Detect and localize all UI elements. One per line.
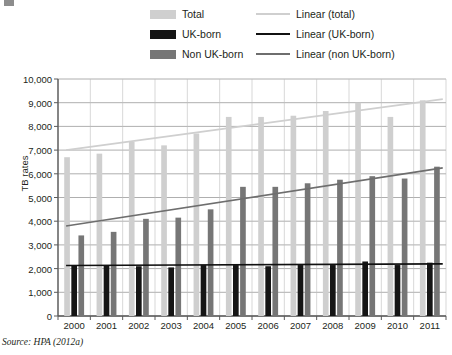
bar-uk-born-2002	[136, 266, 142, 316]
bar-total-2005	[226, 117, 232, 316]
bar-uk-born-2011	[427, 263, 433, 316]
bar-total-2003	[161, 145, 167, 316]
bar-non-uk-born-2007	[305, 183, 311, 316]
bar-total-2000	[64, 157, 70, 316]
bar-uk-born-2001	[104, 265, 110, 316]
bar-uk-born-2005	[233, 265, 239, 316]
plot-area	[0, 0, 452, 355]
bar-non-uk-born-2008	[337, 180, 343, 316]
bar-non-uk-born-2005	[240, 187, 246, 316]
source-note: Source: HPA (2012a)	[2, 337, 83, 347]
bar-non-uk-born-2004	[208, 209, 214, 316]
bar-non-uk-born-2001	[111, 232, 117, 316]
bar-total-2001	[97, 154, 103, 316]
bar-uk-born-2007	[298, 265, 304, 316]
bar-non-uk-born-2002	[143, 219, 149, 316]
bar-total-2011	[420, 100, 426, 316]
bar-uk-born-2010	[395, 265, 401, 316]
bar-total-2010	[388, 117, 394, 316]
bar-non-uk-born-2000	[78, 235, 84, 316]
bar-non-uk-born-2003	[175, 218, 181, 316]
bar-total-2006	[258, 117, 264, 316]
bar-non-uk-born-2009	[369, 176, 375, 316]
bar-uk-born-2009	[362, 261, 368, 316]
bar-total-2009	[355, 103, 361, 316]
bar-non-uk-born-2010	[402, 179, 408, 316]
bar-uk-born-2000	[71, 265, 77, 316]
bar-uk-born-2004	[201, 265, 207, 316]
bar-uk-born-2003	[168, 267, 174, 316]
bar-total-2008	[323, 111, 329, 316]
bar-non-uk-born-2011	[434, 167, 440, 316]
bar-uk-born-2008	[330, 265, 336, 316]
bar-total-2002	[129, 142, 135, 316]
bar-total-2007	[291, 116, 297, 316]
figure: Total UK-born Non UK-born Linear (total)…	[0, 0, 452, 355]
bar-total-2004	[194, 134, 200, 316]
bar-uk-born-2006	[265, 266, 271, 316]
bar-non-uk-born-2006	[272, 187, 278, 316]
